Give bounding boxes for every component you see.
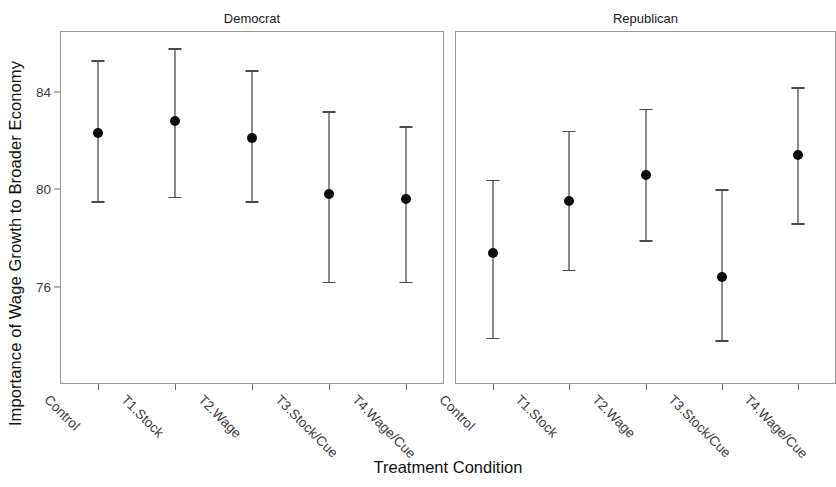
error-bar-cap-upper [399, 126, 412, 128]
x-tick-label: T1.Stock [119, 392, 167, 440]
error-bar-cap-upper [563, 131, 576, 133]
error-bar-cap-upper [169, 48, 182, 50]
estimate-point [641, 170, 651, 180]
x-tick-label: T3.Stock/Cue [665, 392, 733, 460]
estimate-point [93, 128, 103, 138]
x-tick-mark [493, 384, 494, 390]
x-axis-title: Treatment Condition [60, 458, 836, 477]
error-bar-cap-upper [487, 180, 500, 182]
x-tick-label: Control [42, 392, 83, 433]
estimate-point [564, 196, 574, 206]
estimate-point [717, 272, 727, 282]
x-tick-mark [252, 384, 253, 390]
error-bar-cap-upper [322, 111, 335, 113]
x-tick-mark [798, 384, 799, 390]
error-bar-cap-lower [92, 201, 105, 203]
x-tick-mark [569, 384, 570, 390]
estimate-point [170, 116, 180, 126]
error-bar-cap-lower [322, 282, 335, 284]
x-tick-label: T3.Stock/Cue [272, 392, 340, 460]
error-bar-cap-lower [563, 270, 576, 272]
estimate-point [793, 150, 803, 160]
x-tick-mark [406, 384, 407, 390]
error-bar-cap-upper [715, 189, 728, 191]
errorbar-figure: Importance of Wage Growth to Broader Eco… [0, 0, 836, 487]
error-bar-cap-lower [639, 240, 652, 242]
estimate-point [401, 194, 411, 204]
estimate-point [324, 189, 334, 199]
error-bar [721, 189, 722, 340]
error-bar-cap-upper [92, 60, 105, 62]
y-tick-label: 84 [17, 84, 51, 99]
error-bar-cap-upper [639, 109, 652, 111]
y-tick-label: 76 [17, 279, 51, 294]
facet-strip-title: Democrat [60, 8, 444, 28]
x-tick-label: T2.Wage [195, 392, 244, 441]
error-bar-cap-lower [246, 201, 259, 203]
error-bar-cap-upper [791, 87, 804, 89]
facet-strip-title: Republican [455, 8, 836, 28]
error-bar-cap-lower [399, 282, 412, 284]
x-tick-label: T2.Wage [589, 392, 638, 441]
x-tick-label: Control [436, 392, 477, 433]
x-tick-mark [98, 384, 99, 390]
x-tick-mark [329, 384, 330, 390]
error-bar [493, 180, 494, 338]
error-bar-cap-lower [169, 197, 182, 199]
estimate-point [488, 248, 498, 258]
error-bar-cap-lower [791, 223, 804, 225]
x-tick-label: T4.Wage/Cue [349, 392, 418, 461]
y-tick-label: 80 [17, 182, 51, 197]
error-bar-cap-upper [246, 70, 259, 72]
x-tick-mark [646, 384, 647, 390]
x-tick-mark [175, 384, 176, 390]
estimate-point [247, 133, 257, 143]
error-bar-cap-lower [487, 338, 500, 340]
x-tick-mark [722, 384, 723, 390]
x-tick-label: T4.Wage/Cue [741, 392, 810, 461]
y-axis-title: Importance of Wage Growth to Broader Eco… [0, 0, 30, 487]
error-bar-cap-lower [715, 340, 728, 342]
x-tick-label: T1.Stock [513, 392, 561, 440]
